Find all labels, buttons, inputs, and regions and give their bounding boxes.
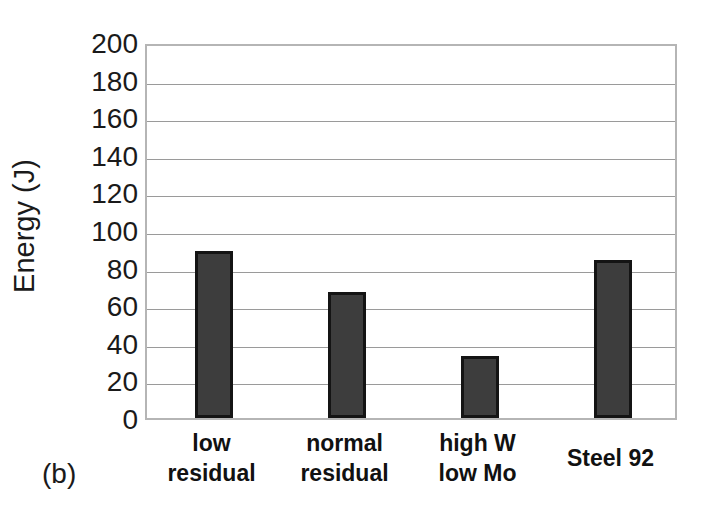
bar: [328, 292, 366, 418]
x-tick-label-line: normal: [278, 428, 411, 458]
y-tick-label: 180: [40, 68, 138, 96]
x-axis-tick-labels: lowresidualnormalresidualhigh Wlow MoSte…: [145, 428, 677, 498]
y-tick-label: 120: [40, 180, 138, 208]
y-tick-label: 80: [40, 256, 138, 284]
x-tick-label-line: low Mo: [411, 458, 544, 488]
x-tick-label-line: residual: [278, 458, 411, 488]
y-tick-label: 40: [40, 331, 138, 359]
bar: [195, 251, 233, 418]
bars-group: [147, 46, 675, 418]
bar: [461, 356, 499, 418]
plot-area: [145, 44, 677, 420]
y-tick-label: 20: [40, 368, 138, 396]
x-tick-label-line: high W: [411, 428, 544, 458]
x-tick-label: Steel 92: [544, 428, 677, 473]
y-axis-title: Energy (J): [6, 126, 42, 326]
y-tick-label: 140: [40, 143, 138, 171]
y-axis-tick-labels: 200180160140120100806040200: [40, 44, 138, 420]
x-tick-label-line: residual: [145, 458, 278, 488]
y-tick-label: 0: [40, 406, 138, 434]
x-tick-label-line: Steel 92: [544, 443, 677, 473]
bar: [594, 260, 632, 418]
y-tick-label: 60: [40, 293, 138, 321]
panel-caption: (b): [42, 458, 76, 490]
y-tick-label: 100: [40, 218, 138, 246]
x-tick-label: high Wlow Mo: [411, 428, 544, 488]
y-tick-label: 160: [40, 105, 138, 133]
y-tick-label: 200: [40, 30, 138, 58]
x-tick-label: lowresidual: [145, 428, 278, 488]
bar-chart-figure: Energy (J) 200180160140120100806040200 l…: [0, 0, 717, 512]
x-tick-label: normalresidual: [278, 428, 411, 488]
x-tick-label-line: low: [145, 428, 278, 458]
